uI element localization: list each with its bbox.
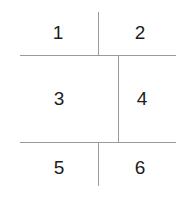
cell-label-6: 6	[123, 157, 157, 179]
vertical-divider-middle	[118, 55, 119, 143]
vertical-divider-bottom	[98, 142, 99, 186]
diagram-canvas: 1 2 3 4 5 6	[0, 0, 191, 199]
cell-label-5: 5	[42, 157, 76, 179]
cell-label-2: 2	[123, 22, 157, 44]
cell-label-3: 3	[42, 88, 76, 110]
cell-label-4: 4	[125, 88, 159, 110]
cell-label-1: 1	[41, 22, 75, 44]
vertical-divider-top	[98, 12, 99, 56]
